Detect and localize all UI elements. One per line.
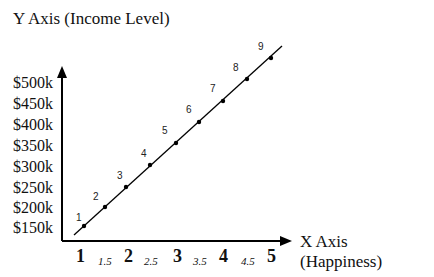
- x-tick-label: 4.5: [241, 252, 255, 270]
- svg-text:4: 4: [141, 148, 147, 159]
- svg-text:5: 5: [162, 125, 168, 136]
- svg-text:3: 3: [117, 170, 123, 181]
- x-tick-label: 2: [124, 247, 133, 265]
- y-axis-arrow-icon: [57, 66, 67, 78]
- x-axis-arrow-icon: [280, 236, 292, 246]
- x-tick-label: 1.5: [98, 252, 112, 270]
- svg-text:7: 7: [210, 83, 216, 94]
- x-tick-label: 2.5: [144, 252, 158, 270]
- svg-text:6: 6: [186, 104, 192, 115]
- svg-text:9: 9: [258, 41, 264, 52]
- point-labels: 1 2 3 4 5 6 7 8 9: [76, 41, 264, 223]
- x-tick-label: 5: [267, 247, 276, 265]
- svg-text:1: 1: [76, 212, 82, 223]
- svg-text:2: 2: [93, 191, 99, 202]
- x-tick-label: 3.5: [193, 252, 207, 270]
- x-tick-label: 4: [219, 247, 228, 265]
- x-axis-title: X Axis (Happiness): [300, 232, 434, 272]
- svg-text:8: 8: [233, 62, 239, 73]
- x-tick-label: 3: [173, 247, 182, 265]
- x-tick-label: 1: [76, 247, 85, 265]
